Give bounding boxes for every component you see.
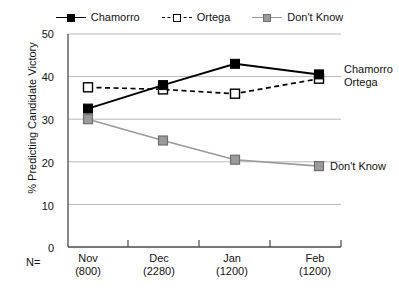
plot-canvas — [0, 0, 399, 291]
x-tick-label-jan: Jan (1200) — [190, 252, 274, 278]
series-line-ortega — [88, 79, 319, 94]
data-point-chamorro-dec — [159, 81, 168, 90]
series-end-label-dont-know: Don't Know — [330, 160, 386, 172]
data-point-chamorro-nov — [84, 104, 93, 113]
data-point-dont-know-dec — [159, 136, 168, 145]
x-tick-label-feb-text: Feb — [273, 252, 357, 265]
chart-figure: Chamorro Ortega Don't Know % Predicting … — [0, 0, 399, 291]
x-tick-label-feb: Feb (1200) — [273, 252, 357, 278]
data-point-ortega-nov — [84, 83, 93, 92]
series-end-label-chamorro: Chamorro — [344, 63, 393, 75]
sample-size-jan: (1200) — [190, 265, 274, 278]
data-point-dont-know-nov — [84, 115, 93, 124]
data-point-chamorro-feb — [315, 70, 324, 79]
data-point-dont-know-jan — [231, 155, 240, 164]
series-line-dont-know — [88, 119, 319, 166]
series-end-label-ortega: Ortega — [344, 76, 378, 88]
sample-size-dec: (2280) — [117, 265, 201, 278]
x-tick-label-dec: Dec (2280) — [117, 252, 201, 278]
data-point-chamorro-jan — [231, 59, 240, 68]
sample-size-feb: (1200) — [273, 265, 357, 278]
x-tick-label-dec-text: Dec — [117, 252, 201, 265]
series-line-chamorro — [88, 64, 319, 109]
data-point-dont-know-feb — [315, 162, 324, 171]
x-tick-label-jan-text: Jan — [190, 252, 274, 265]
data-point-ortega-jan — [231, 89, 240, 98]
sample-size-prefix-label: N= — [26, 256, 40, 268]
